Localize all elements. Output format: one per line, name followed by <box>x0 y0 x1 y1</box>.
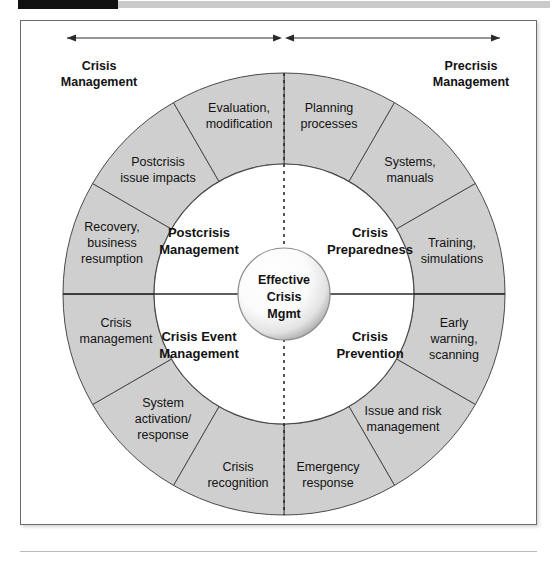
quadrant-line: Prevention <box>336 346 403 361</box>
quadrant-line: Management <box>159 346 239 361</box>
left-header-label: Crisis Management <box>61 59 138 89</box>
label-line: activation/ <box>135 412 192 426</box>
center-line2: Crisis <box>267 290 302 304</box>
right-header-line2: Management <box>433 75 510 89</box>
left-header-line2: Management <box>61 75 138 89</box>
label-line: response <box>137 428 188 442</box>
label-line: simulations <box>421 252 484 266</box>
center-line3: Mgmt <box>267 307 301 321</box>
left-arrow-head-start <box>67 35 76 42</box>
label-line: issue impacts <box>120 171 196 185</box>
top-bar-black-block <box>18 0 118 9</box>
label-line: System <box>142 396 184 410</box>
label-line: Crisis <box>222 460 253 474</box>
label-line: Recovery, <box>84 220 139 234</box>
label-line: Planning <box>305 101 354 115</box>
label-system-activation-response: System activation/ response <box>135 396 192 442</box>
quadrant-line: Management <box>159 242 239 257</box>
left-arrow-head-end <box>273 35 282 42</box>
label-line: recognition <box>207 476 268 490</box>
quadrant-line: Crisis Event <box>161 329 237 344</box>
right-header-line1: Precrisis <box>445 59 498 73</box>
center-line1: Effective <box>258 273 310 287</box>
figure-container: Crisis Management Precrisis Management <box>20 20 537 525</box>
quadrant-line: Crisis <box>352 329 388 344</box>
right-arrow-head-end <box>491 35 500 42</box>
quadrant-line: Preparedness <box>327 242 413 257</box>
header-arrows-group <box>67 35 500 42</box>
label-line: Issue and risk <box>364 404 442 418</box>
footer-divider-rule <box>20 551 537 552</box>
label-line: modification <box>206 117 273 131</box>
top-bar-gray-block <box>118 1 550 8</box>
label-line: Training, <box>428 236 476 250</box>
quadrant-line: Crisis <box>352 225 388 240</box>
label-line: Systems, <box>384 155 435 169</box>
label-line: warning, <box>429 332 477 346</box>
label-line: Evaluation, <box>208 101 270 115</box>
center-hub[interactable]: Effective Crisis Mgmt <box>238 248 330 340</box>
label-recovery-business-resumption: Recovery, business resumption <box>81 220 143 266</box>
crisis-management-wheel-diagram: Crisis Management Precrisis Management <box>21 21 538 526</box>
quadrant-line: Postcrisis <box>168 225 230 240</box>
label-line: business <box>87 236 136 250</box>
label-line: Early <box>440 316 469 330</box>
label-line: Postcrisis <box>131 155 184 169</box>
label-line: resumption <box>81 252 143 266</box>
right-arrow-head-start <box>285 35 294 42</box>
label-line: Crisis <box>100 316 131 330</box>
label-line: manuals <box>386 171 433 185</box>
label-line: response <box>302 476 353 490</box>
label-line: management <box>80 332 153 346</box>
top-decoration-bar <box>0 0 560 12</box>
left-header-line1: Crisis <box>82 59 117 73</box>
label-line: processes <box>301 117 358 131</box>
label-line: scanning <box>429 348 479 362</box>
right-header-label: Precrisis Management <box>433 59 510 89</box>
label-line: management <box>367 420 440 434</box>
label-line: Emergency <box>296 460 360 474</box>
